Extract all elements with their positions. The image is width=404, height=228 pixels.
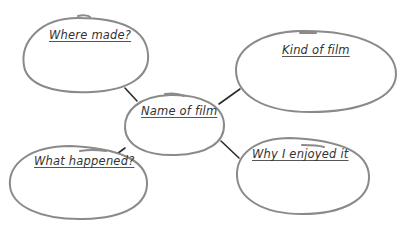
label-what-happened: What happened? <box>34 154 134 168</box>
label-where-made: Where made? <box>49 28 131 42</box>
connector-why-enjoyed <box>221 141 239 158</box>
bubble-name-of-film <box>125 94 224 155</box>
connector-where-made <box>125 88 137 101</box>
label-why-enjoyed: Why I enjoyed it <box>252 147 349 161</box>
label-kind-of-film: Kind of film <box>282 43 350 57</box>
connector-kind-of-film <box>219 89 240 104</box>
label-name-of-film: Name of film <box>141 104 217 118</box>
bubble-where-made <box>23 15 148 92</box>
